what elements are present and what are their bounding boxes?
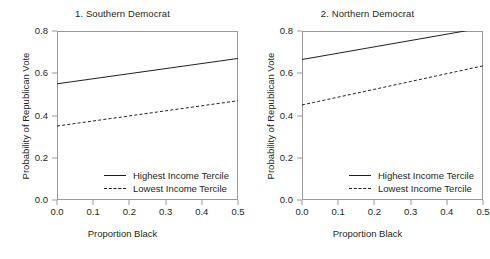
x-tick-mark: [57, 200, 58, 205]
y-tick-label: 0.2: [280, 153, 293, 163]
x-tick-label: 0.1: [87, 207, 100, 217]
legend-item-lowest: Lowest Income Tercile: [103, 182, 235, 194]
dashed-line-key-icon: [103, 183, 127, 193]
y-tick-label: 0.8: [35, 26, 48, 36]
x-tick-mark: [446, 200, 447, 205]
x-tick-mark: [483, 200, 484, 205]
legend-label: Lowest Income Tercile: [378, 183, 472, 194]
plot-area: Highest Income Tercile Lowest Income Ter…: [302, 31, 483, 200]
x-tick-label: 0.4: [195, 207, 208, 217]
x-tick-mark: [374, 200, 375, 205]
figure-two-panel-line-chart: 1. Southern Democrat Probability of Repu…: [0, 0, 490, 259]
x-tick-label: 0.4: [440, 207, 453, 217]
y-tick-label: 0.4: [280, 111, 293, 121]
y-tick-label: 0.6: [280, 68, 293, 78]
x-tick-mark: [410, 200, 411, 205]
x-tick-mark: [93, 200, 94, 205]
legend: Highest Income Tercile Lowest Income Ter…: [348, 169, 480, 195]
series-line-dashed: [302, 66, 483, 105]
solid-line-key-icon: [103, 170, 127, 180]
x-tick-mark: [129, 200, 130, 205]
x-tick-label: 0.1: [332, 207, 345, 217]
x-tick-mark: [201, 200, 202, 205]
x-tick-label: 0.3: [404, 207, 417, 217]
panel-title: 2. Northern Democrat: [245, 8, 490, 19]
legend-item-lowest: Lowest Income Tercile: [348, 182, 480, 194]
x-tick-mark: [165, 200, 166, 205]
x-tick-mark: [338, 200, 339, 205]
y-tick-label: 0.6: [35, 68, 48, 78]
x-tick-mark: [238, 200, 239, 205]
y-axis: 0.00.20.40.60.8: [245, 31, 302, 200]
x-tick-label: 0.5: [476, 207, 489, 217]
legend-label: Highest Income Tercile: [378, 170, 474, 181]
series-line-solid: [57, 58, 238, 83]
x-tick-mark: [302, 200, 303, 205]
y-tick-label: 0.4: [35, 111, 48, 121]
y-tick-label: 0.0: [280, 195, 293, 205]
x-axis: 0.00.10.20.30.40.5: [302, 200, 483, 222]
x-tick-label: 0.2: [123, 207, 136, 217]
series-line-solid: [302, 31, 483, 60]
x-tick-label: 0.3: [159, 207, 172, 217]
panel-southern-democrat: 1. Southern Democrat Probability of Repu…: [0, 0, 245, 259]
legend-item-highest: Highest Income Tercile: [103, 169, 235, 181]
x-tick-label: 0.5: [231, 207, 244, 217]
x-axis-title: Proportion Black: [0, 228, 245, 239]
legend-label: Lowest Income Tercile: [133, 183, 227, 194]
x-axis: 0.00.10.20.30.40.5: [57, 200, 238, 222]
legend: Highest Income Tercile Lowest Income Ter…: [103, 169, 235, 195]
series-line-dashed: [57, 101, 238, 126]
legend-item-highest: Highest Income Tercile: [348, 169, 480, 181]
y-tick-label: 0.2: [35, 153, 48, 163]
dashed-line-key-icon: [348, 183, 372, 193]
x-tick-label: 0.0: [295, 207, 308, 217]
y-axis: 0.00.20.40.60.8: [0, 31, 57, 200]
legend-label: Highest Income Tercile: [133, 170, 229, 181]
panel-title: 1. Southern Democrat: [0, 8, 245, 19]
panel-northern-democrat: 2. Northern Democrat Probability of Repu…: [245, 0, 490, 259]
x-tick-label: 0.2: [368, 207, 381, 217]
y-tick-label: 0.0: [35, 195, 48, 205]
plot-area: Highest Income Tercile Lowest Income Ter…: [57, 31, 238, 200]
x-axis-title: Proportion Black: [245, 228, 490, 239]
x-tick-label: 0.0: [50, 207, 63, 217]
y-tick-label: 0.8: [280, 26, 293, 36]
solid-line-key-icon: [348, 170, 372, 180]
